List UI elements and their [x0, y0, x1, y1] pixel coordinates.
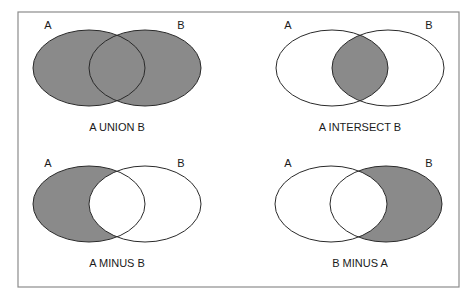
venn-diagram-canvas: ABA UNION BABA INTERSECT BABA MINUS BABB…	[0, 0, 476, 301]
set-b-label: B	[425, 19, 432, 31]
set-a-label: A	[44, 157, 52, 169]
venn-panel-b-minus-a: ABB MINUS A	[275, 157, 442, 269]
venn-diagram-figure: ABA UNION BABA INTERSECT BABA MINUS BABB…	[0, 0, 476, 301]
venn-panel-union: ABA UNION B	[33, 19, 201, 133]
panel-caption: A UNION B	[89, 121, 145, 133]
shaded-region-union	[33, 30, 201, 106]
venn-panels: ABA UNION BABA INTERSECT BABA MINUS BABB…	[33, 19, 444, 269]
set-a-label: A	[284, 157, 292, 169]
panel-caption: B MINUS A	[332, 257, 388, 269]
venn-panel-a-minus-b: ABA MINUS B	[33, 157, 201, 269]
set-a-label: A	[44, 19, 52, 31]
set-a-label: A	[284, 19, 292, 31]
venn-panel-intersect: ABA INTERSECT B	[276, 19, 444, 133]
panel-caption: A MINUS B	[89, 257, 145, 269]
set-b-label: B	[425, 157, 432, 169]
panel-caption: A INTERSECT B	[319, 121, 401, 133]
set-b-label: B	[177, 157, 184, 169]
set-b-label: B	[177, 19, 184, 31]
